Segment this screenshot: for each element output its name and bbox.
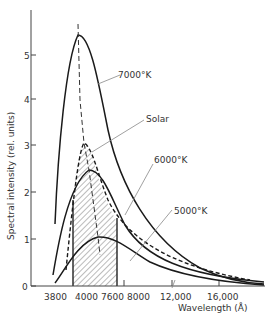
label-7000k: 7000°K: [118, 70, 152, 80]
x-ticks: [124, 280, 219, 286]
y-axis-title: Spectral intensity (rel. units): [6, 112, 16, 240]
x-tick-3800: 3800: [44, 292, 67, 302]
y-ticks: [31, 55, 36, 286]
x-tick-4000: 4000: [75, 292, 98, 302]
x-tick-8000: 8000: [127, 292, 150, 302]
y-tick-0: 0: [22, 282, 28, 292]
y-tick-2: 2: [24, 188, 30, 198]
x-tick-16000: 16,000: [207, 292, 239, 302]
x-tick-12000: 12,000: [160, 292, 192, 302]
x-tick-7600: 7600: [101, 292, 124, 302]
label-5000k: 5000°K: [174, 206, 208, 216]
y-tick-1: 1: [24, 235, 30, 245]
y-tick-3: 3: [24, 141, 30, 151]
spectral-intensity-chart: 0 1 2 3 4 5 3800 4000 7600 8000 12,000 1…: [0, 0, 272, 316]
label-6000k: 6000°K: [154, 155, 188, 165]
label-solar: Solar: [146, 114, 169, 124]
y-tick-4: 4: [24, 95, 30, 105]
y-tick-5: 5: [24, 51, 30, 61]
x-axis-title: Wavelength (Å): [178, 302, 247, 313]
